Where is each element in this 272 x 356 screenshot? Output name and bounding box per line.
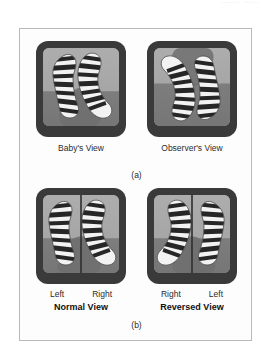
legs-illustration-split-normal [43, 195, 119, 273]
view-name-normal: Normal View [54, 301, 108, 313]
subfigure-label-b: (b) [20, 320, 253, 330]
page-header-strip: ….… …… [0, 0, 272, 14]
label-left-reversed: Right [161, 289, 181, 300]
legs-illustration-inverted [154, 48, 230, 126]
legs-illustration-split-reversed [154, 195, 230, 273]
panel-normal-view: Left Right Normal View [35, 188, 128, 313]
header-faint-text: ….… …… [221, 0, 260, 5]
label-left-normal: Left [50, 289, 64, 300]
caption-babys-view: Baby's View [58, 142, 104, 154]
view-name-reversed: Reversed View [160, 301, 223, 313]
screen-frame-babys-view [36, 41, 126, 137]
lr-labels-normal-view: Left Right [36, 289, 126, 300]
panel-row-b: Left Right Normal View [20, 188, 253, 313]
screen-inner-babys-view [43, 48, 119, 126]
screen-inner-normal-view [43, 195, 119, 273]
label-right-reversed: Left [209, 289, 223, 300]
panel-reversed-view: Right Left Reversed View [146, 188, 239, 313]
figure-page: ….… …… [0, 0, 272, 356]
subfigure-label-a: (a) [20, 170, 253, 180]
panel-observers-view: Observer's View [146, 41, 239, 154]
panel-row-a: Baby's View [20, 41, 253, 154]
screen-frame-observers-view [147, 41, 237, 137]
label-right-normal: Right [92, 289, 112, 300]
legs-illustration-upright [43, 48, 119, 126]
screen-inner-observers-view [154, 48, 230, 126]
screen-inner-reversed-view [154, 195, 230, 273]
screen-frame-reversed-view [147, 188, 237, 284]
panel-babys-view: Baby's View [35, 41, 128, 154]
screen-frame-normal-view [36, 188, 126, 284]
caption-observers-view: Observer's View [161, 142, 222, 154]
figure-border-box: Baby's View [19, 28, 252, 341]
lr-labels-reversed-view: Right Left [147, 289, 237, 300]
